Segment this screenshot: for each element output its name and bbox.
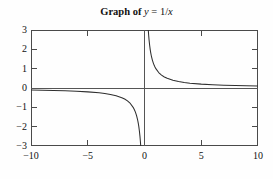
x-tick-label-0: 0 bbox=[125, 151, 165, 161]
y-axis-tick-labels: 3 2 1 0 −1 −2 −3 bbox=[0, 30, 27, 146]
chart-figure: Graph of y = 1/x 3 2 1 0 −1 −2 −3 bbox=[0, 0, 273, 179]
curve-positive-branch bbox=[148, 30, 258, 86]
y-tick-label-neg2: −2 bbox=[1, 122, 27, 132]
chart-title-prefix: Graph of bbox=[100, 6, 141, 17]
chart-title-variable-x: x bbox=[168, 6, 173, 17]
x-tick-label-neg10: −10 bbox=[11, 151, 51, 161]
x-tick-label-5: 5 bbox=[181, 151, 221, 161]
y-tick-label-2: 2 bbox=[1, 44, 27, 54]
y-tick-label-neg1: −1 bbox=[1, 102, 27, 112]
x-tick-label-10: 10 bbox=[238, 151, 273, 161]
plot-area bbox=[31, 30, 258, 146]
y-tick-label-1: 1 bbox=[1, 64, 27, 74]
x-tick-label-neg5: −5 bbox=[68, 151, 108, 161]
y-tick-label-0: 0 bbox=[1, 83, 27, 93]
y-tick-label-3: 3 bbox=[1, 25, 27, 35]
x-axis-tick-labels: −10 −5 0 5 10 bbox=[31, 151, 258, 165]
curve-negative-branch bbox=[31, 90, 141, 146]
chart-title-numerator: 1/ bbox=[160, 6, 168, 17]
chart-title: Graph of y = 1/x bbox=[0, 5, 273, 18]
plot-canvas bbox=[31, 30, 258, 146]
